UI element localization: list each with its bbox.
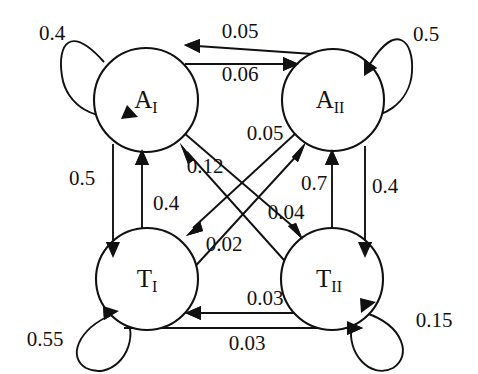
state-transition-diagram: 0.4 0.5 0.55 0.15 0.05 [0, 0, 478, 374]
overlay-arrowhead-a1-t2 [288, 223, 303, 240]
self-loop-t1-label: 0.55 [27, 327, 64, 351]
edge-a1-a2: 0.06 [185, 57, 299, 86]
node-t2-base: T [316, 265, 331, 292]
edge-t1-t2-label: 0.03 [229, 331, 266, 355]
edge-a1-a2-label: 0.06 [222, 62, 259, 86]
edge-t2-a1-label: 0.02 [206, 232, 243, 256]
node-t1-base: T [137, 265, 152, 292]
edge-a2-t2-label: 0.4 [372, 174, 399, 198]
edge-t1-a1-label: 0.4 [153, 191, 180, 215]
edge-t2-t1-label: 0.03 [247, 286, 284, 310]
state-diagram-container: 0.4 0.5 0.55 0.15 0.05 [0, 0, 478, 374]
edge-a1-t1-label: 0.5 [69, 166, 95, 190]
edge-t2-a2-label: 0.7 [301, 171, 327, 195]
node-a1-subscript: I [152, 99, 157, 116]
overlay-arrowhead-a2-a1 [184, 39, 200, 53]
node-t2-subscript: II [331, 278, 342, 295]
node-a1-base: A [134, 86, 152, 113]
node-a2-subscript: II [334, 99, 345, 116]
node-a1[interactable]: AI [94, 48, 198, 152]
self-loop-a1-label: 0.4 [39, 21, 66, 45]
edge-a2-a1-label: 0.05 [222, 19, 259, 43]
node-a2-base: A [316, 86, 334, 113]
overlay-arrowhead-a2-t1 [186, 221, 203, 236]
edge-a1-t2-label: 0.04 [268, 200, 305, 224]
edge-a1-t2: 0.04 [184, 133, 305, 240]
edge-t1-a2-label: 0.05 [247, 121, 284, 145]
self-loop-t2-label: 0.15 [416, 308, 453, 332]
node-t1-subscript: I [152, 278, 157, 295]
self-loop-a2-label: 0.5 [413, 22, 439, 46]
